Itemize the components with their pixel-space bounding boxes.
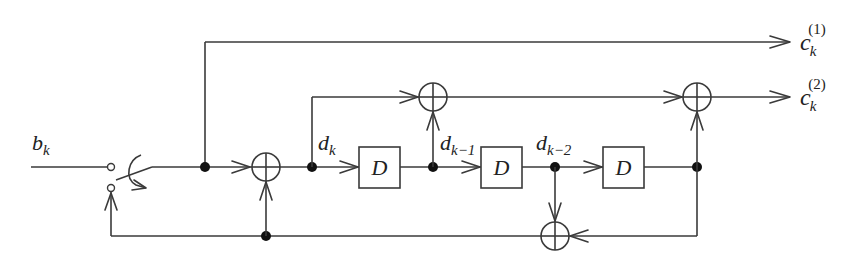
delay-block-3-label: D <box>615 155 632 180</box>
delay-block-2-label: D <box>493 155 510 180</box>
switch-contact-bottom <box>108 185 115 192</box>
switch-contact-top <box>108 164 115 171</box>
output-label-c1: ck(1) <box>800 21 826 59</box>
switch-arrowhead-icon <box>132 180 146 190</box>
delay-block-1-label: D <box>371 155 388 180</box>
input-label: bk <box>32 130 50 158</box>
top-adder <box>419 83 447 111</box>
signal-label-dk: dk <box>318 130 336 158</box>
output-label-c2: ck(2) <box>800 76 826 114</box>
signal-label-dk2: dk−2 <box>536 130 572 158</box>
feedback-adder <box>541 222 569 250</box>
junction-dot <box>200 162 210 172</box>
encoder-diagram: bk dk D dk−1 <box>0 0 859 262</box>
output-adder <box>683 83 711 111</box>
switch <box>108 155 153 192</box>
input-adder <box>252 153 280 181</box>
switch-lever <box>116 167 152 180</box>
signal-label-dk1: dk−1 <box>440 130 475 158</box>
